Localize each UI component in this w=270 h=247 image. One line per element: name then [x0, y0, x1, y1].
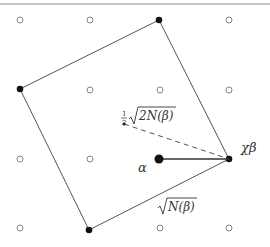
lattice-point	[87, 17, 93, 23]
diagram-canvas: α χβ 1 2 2N(β) N(β)	[0, 0, 270, 247]
square-vertex	[86, 227, 93, 234]
square-vertex	[156, 17, 163, 24]
dashed-half-diagonal	[124, 124, 229, 159]
lattice-point	[226, 225, 232, 231]
side-length-label: N(β)	[158, 198, 197, 214]
square-vertex	[17, 86, 24, 93]
lattice-point	[17, 17, 23, 23]
lattice-point	[87, 87, 93, 93]
fraction-denominator: 2	[122, 119, 126, 127]
radicand-n-beta: N(β)	[167, 200, 195, 214]
half-diagonal-label: 1 2 2N(β)	[121, 107, 176, 127]
radicand-2n-beta: 2N(β)	[138, 109, 174, 123]
lattice-point	[17, 225, 23, 231]
lattice-point	[157, 87, 163, 93]
lattice-point	[226, 87, 232, 93]
lattice-diagram: α χβ 1 2 2N(β) N(β)	[0, 0, 270, 247]
lattice-point	[226, 17, 232, 23]
alpha-point	[155, 155, 164, 164]
lattice-point	[17, 156, 23, 162]
fraction-numerator: 1	[122, 110, 126, 118]
chi-beta-label: χβ	[240, 140, 256, 155]
alpha-label: α	[138, 160, 147, 175]
lattice-point	[157, 225, 163, 231]
lattice-point	[87, 156, 93, 162]
